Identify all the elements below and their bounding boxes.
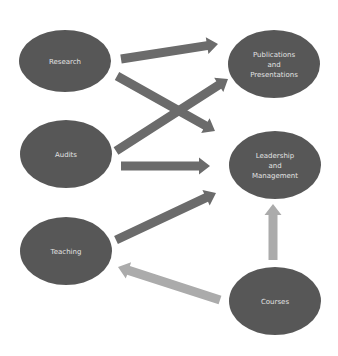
node-label: Leadership	[256, 152, 295, 160]
arrow-audits-to-publications	[114, 78, 228, 155]
node-label: and	[267, 61, 280, 69]
node-label: Research	[49, 58, 81, 66]
node-research: Research	[19, 30, 111, 92]
node-label: Audits	[55, 151, 77, 159]
node-teaching: Teaching	[20, 217, 112, 285]
node-publications: PublicationsandPresentations	[228, 30, 320, 98]
flow-diagram: ResearchPublicationsandPresentationsAudi…	[0, 0, 338, 356]
node-courses: Courses	[229, 267, 321, 335]
node-label: Publications	[253, 51, 295, 59]
node-audits: Audits	[20, 120, 112, 188]
node-label: Presentations	[250, 71, 298, 79]
node-label: Management	[252, 172, 298, 180]
arrow-courses-to-teaching	[118, 262, 221, 304]
arrow-audits-to-leadership	[121, 158, 210, 175]
arrow-research-to-publications	[120, 37, 218, 63]
node-label: Courses	[261, 298, 289, 306]
node-label: and	[268, 162, 281, 170]
arrow-courses-to-leadership	[265, 204, 282, 260]
node-label: Teaching	[50, 248, 82, 256]
node-leadership: LeadershipandManagement	[229, 131, 321, 199]
nodes-layer: ResearchPublicationsandPresentationsAudi…	[19, 30, 321, 335]
arrow-teaching-to-leadership	[114, 190, 216, 244]
